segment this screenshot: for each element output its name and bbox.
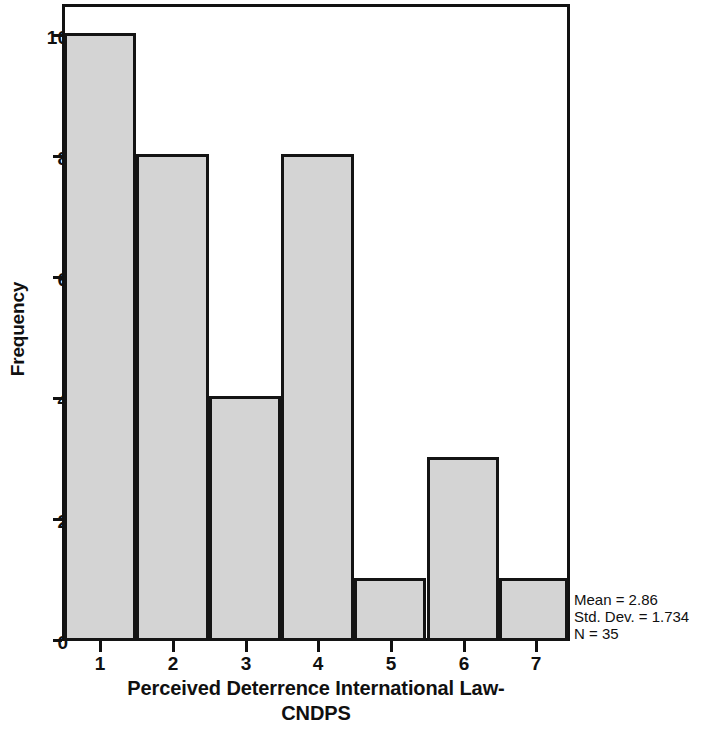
y-tick-mark-10 bbox=[53, 34, 62, 37]
stat-std-dev: Std. Dev. = 1.734 bbox=[574, 608, 710, 625]
x-axis-title: Perceived Deterrence International Law- … bbox=[62, 676, 570, 726]
y-tick-mark-8 bbox=[53, 155, 62, 158]
x-tick-mark-7 bbox=[535, 641, 538, 652]
x-tick-mark-4 bbox=[317, 641, 320, 652]
y-tick-mark-4 bbox=[53, 397, 62, 400]
x-tick-label-6: 6 bbox=[444, 654, 484, 673]
bars-layer bbox=[62, 4, 570, 641]
histogram-bar bbox=[209, 396, 282, 641]
histogram-bar bbox=[64, 33, 137, 641]
statistics-annotation: Mean = 2.86 Std. Dev. = 1.734 N = 35 bbox=[574, 591, 710, 642]
x-tick-mark-6 bbox=[463, 641, 466, 652]
x-axis-title-line-2: CNDPS bbox=[62, 701, 570, 726]
y-axis-title: Frequency bbox=[6, 249, 30, 409]
histogram-bar bbox=[499, 578, 568, 641]
histogram-bar bbox=[354, 578, 427, 641]
x-tick-label-4: 4 bbox=[298, 654, 338, 673]
x-tick-label-1: 1 bbox=[80, 654, 120, 673]
y-tick-mark-2 bbox=[53, 518, 62, 521]
histogram-bar bbox=[427, 457, 500, 641]
x-tick-mark-5 bbox=[390, 641, 393, 652]
histogram-bar bbox=[136, 154, 209, 641]
stat-mean: Mean = 2.86 bbox=[574, 591, 710, 608]
x-tick-label-2: 2 bbox=[153, 654, 193, 673]
x-tick-label-5: 5 bbox=[371, 654, 411, 673]
histogram-figure: Frequency 0 2 4 6 8 10 1 2 3 4 5 6 7 Per… bbox=[0, 0, 710, 734]
y-tick-mark-0 bbox=[53, 639, 62, 642]
stat-n: N = 35 bbox=[574, 625, 710, 642]
x-axis-title-line-1: Perceived Deterrence International Law- bbox=[127, 677, 504, 699]
x-tick-label-7: 7 bbox=[516, 654, 556, 673]
x-tick-mark-1 bbox=[99, 641, 102, 652]
x-tick-label-3: 3 bbox=[226, 654, 266, 673]
histogram-bar bbox=[281, 154, 354, 641]
x-tick-mark-3 bbox=[245, 641, 248, 652]
x-tick-mark-2 bbox=[172, 641, 175, 652]
y-tick-mark-6 bbox=[53, 276, 62, 279]
